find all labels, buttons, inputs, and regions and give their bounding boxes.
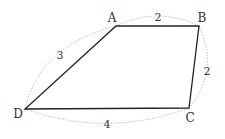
side-length-da: 3 bbox=[57, 49, 64, 62]
side-length-bc: 2 bbox=[204, 65, 211, 78]
vertex-label-d: D bbox=[13, 107, 23, 121]
vertex-label-c: C bbox=[185, 111, 194, 125]
quadrilateral-abcd bbox=[25, 26, 199, 109]
quadrilateral-diagram: A B C D 2 2 4 3 bbox=[0, 0, 225, 139]
side-length-ab: 2 bbox=[155, 11, 162, 24]
vertex-label-a: A bbox=[107, 11, 117, 25]
side-length-cd: 4 bbox=[104, 118, 111, 131]
vertex-label-b: B bbox=[198, 11, 207, 25]
